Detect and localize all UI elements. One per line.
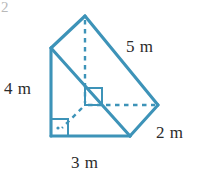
edge-apex-to-topleft xyxy=(51,16,85,48)
edge-2m-depth xyxy=(130,105,158,136)
edge-5m-slant xyxy=(85,16,158,105)
prism-figure-container: 2 5 m 4 m 2 m 3 m xyxy=(0,0,199,179)
corner-artifact-glyph: 2 xyxy=(1,0,9,15)
label-slant-edge-5m: 5 m xyxy=(126,38,153,55)
base-right-angle-marker xyxy=(51,119,68,136)
label-depth-edge-2m: 2 m xyxy=(156,124,183,141)
label-base-edge-3m: 3 m xyxy=(71,154,98,171)
edge-front-diagonal xyxy=(51,48,130,136)
label-height-edge-4m: 4 m xyxy=(4,80,31,97)
